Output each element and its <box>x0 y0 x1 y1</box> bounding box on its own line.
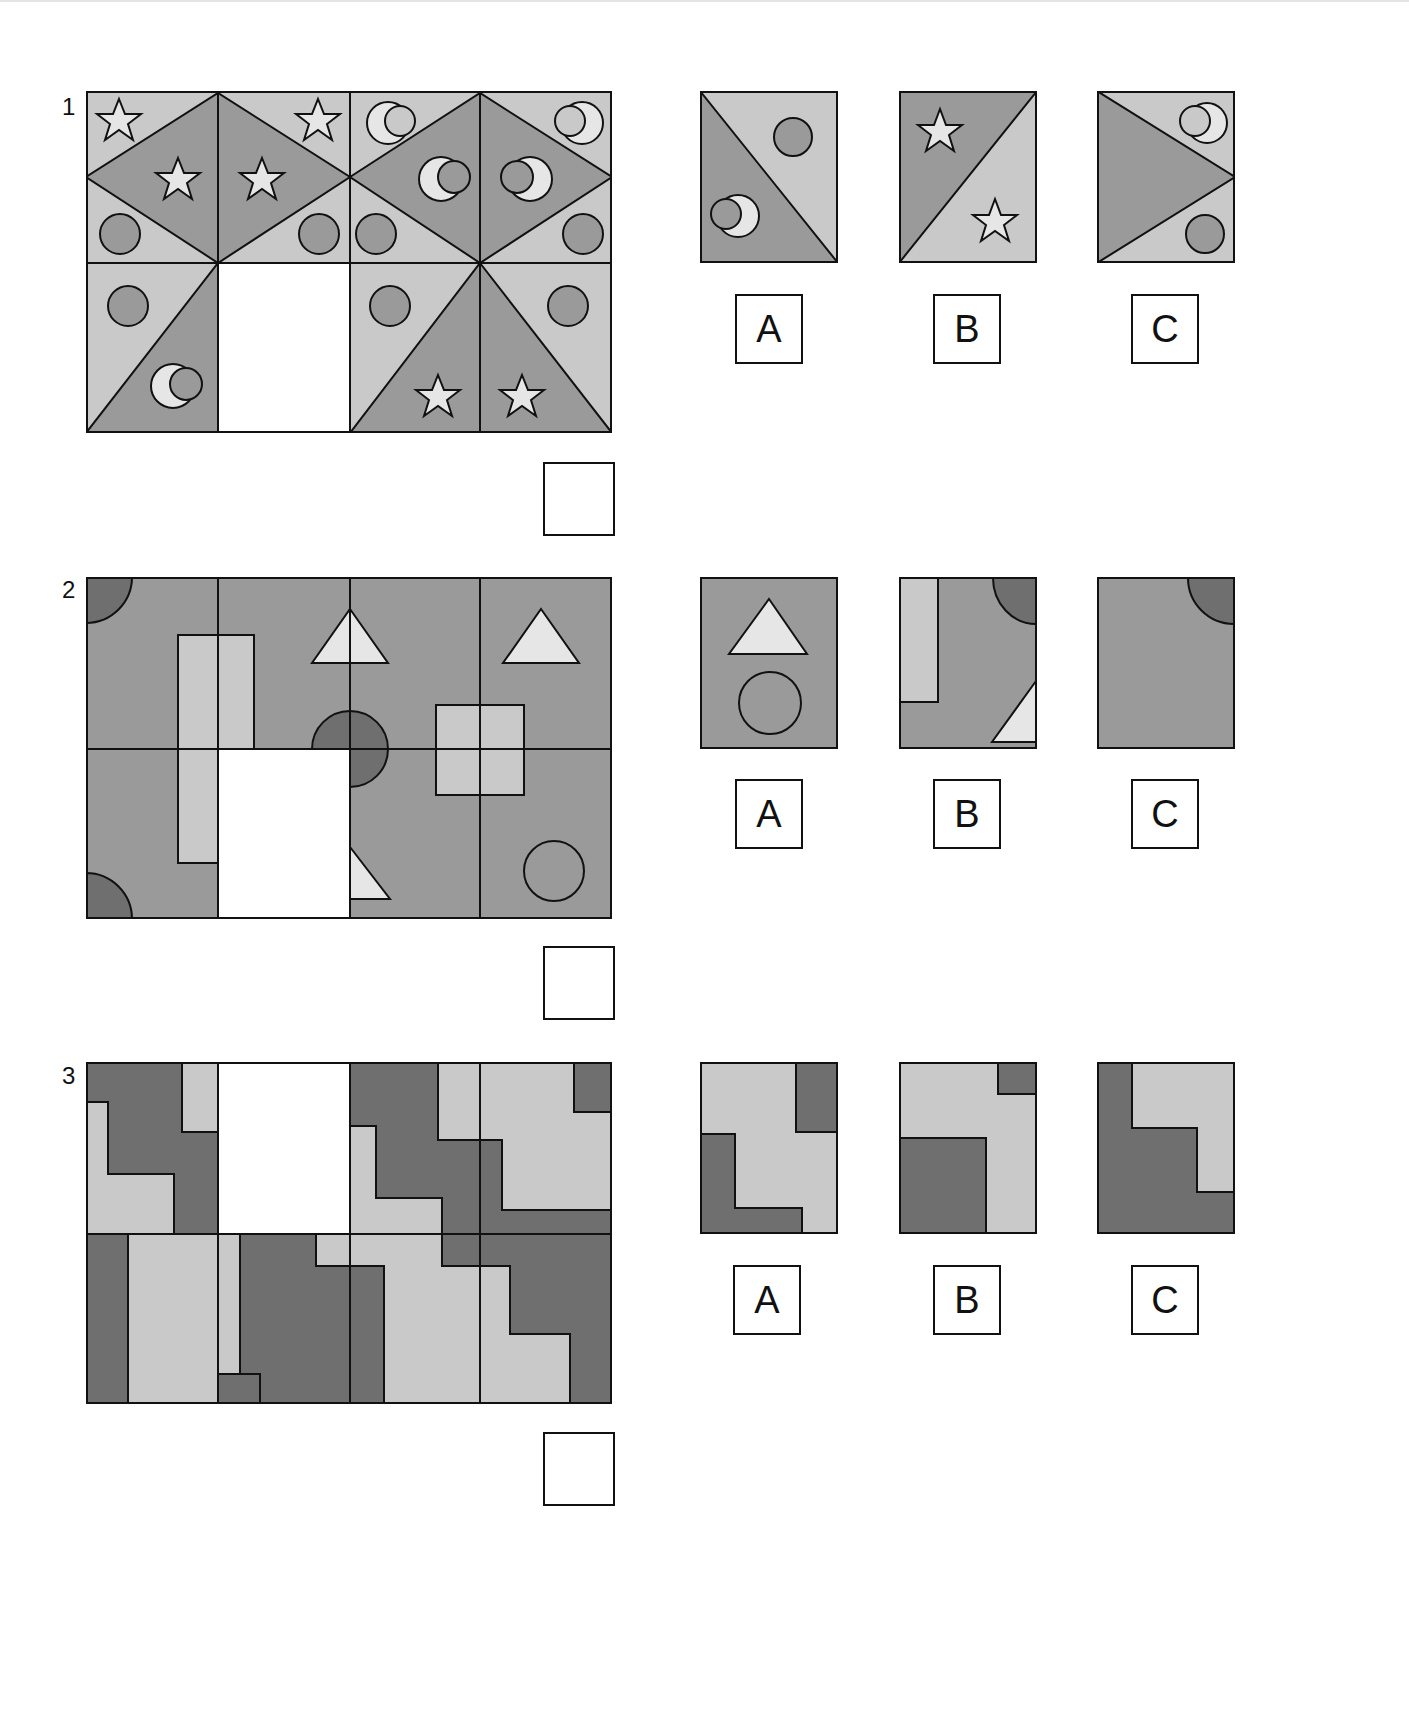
option-b-button[interactable]: B <box>933 1265 1001 1335</box>
option-a-button[interactable]: A <box>735 294 803 364</box>
option-a-tile[interactable] <box>700 91 838 263</box>
puzzle-2-grid <box>86 577 612 919</box>
missing-cell <box>218 263 350 433</box>
option-c-tile[interactable] <box>1097 91 1235 263</box>
option-a-button[interactable]: A <box>733 1265 801 1335</box>
option-c-tile[interactable] <box>1097 577 1235 749</box>
option-c-button[interactable]: C <box>1131 779 1199 849</box>
puzzle-1-grid <box>86 91 612 433</box>
answer-box-3[interactable] <box>543 1432 615 1506</box>
puzzle-3-grid <box>86 1062 612 1404</box>
option-a-tile[interactable] <box>700 1062 838 1234</box>
option-a-button[interactable]: A <box>735 779 803 849</box>
answer-box-1[interactable] <box>543 462 615 536</box>
answer-box-2[interactable] <box>543 946 615 1020</box>
option-b-button[interactable]: B <box>933 779 1001 849</box>
question-number: 1 <box>62 95 75 119</box>
option-b-tile[interactable] <box>899 577 1037 749</box>
option-c-tile[interactable] <box>1097 1062 1235 1234</box>
option-b-tile[interactable] <box>899 91 1037 263</box>
missing-cell <box>218 1062 350 1234</box>
option-c-button[interactable]: C <box>1131 1265 1199 1335</box>
page-top-edge <box>0 0 1409 2</box>
option-b-button[interactable]: B <box>933 294 1001 364</box>
question-number: 2 <box>62 578 75 602</box>
option-b-tile[interactable] <box>899 1062 1037 1234</box>
option-a-tile[interactable] <box>700 577 838 749</box>
missing-cell <box>218 749 350 919</box>
option-c-button[interactable]: C <box>1131 294 1199 364</box>
question-number: 3 <box>62 1064 75 1088</box>
